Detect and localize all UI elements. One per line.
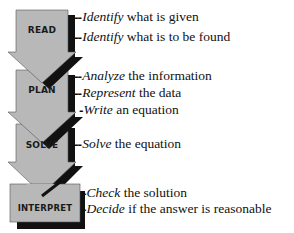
dash-connector: - bbox=[82, 187, 86, 201]
dash-connector: - bbox=[82, 203, 86, 217]
problem-solving-flow-diagram: READ PLAN SOLVE INTERPRET --Identify wha… bbox=[0, 0, 294, 233]
stage-label-interpret: INTERPRET bbox=[10, 203, 80, 213]
step-verb: Check bbox=[87, 185, 121, 200]
step-text: what is given bbox=[123, 9, 198, 24]
step-text: the equation bbox=[111, 136, 181, 151]
step-verb: Analyze bbox=[82, 68, 125, 83]
read-step-2: --Identify what is to be found bbox=[74, 30, 230, 45]
step-verb: Identify bbox=[82, 29, 123, 44]
dash-connector: -- bbox=[74, 11, 81, 25]
dash-connector: -- bbox=[74, 31, 81, 45]
dash-connector: - bbox=[79, 104, 83, 118]
plan-step-3: -Write an equation bbox=[79, 103, 179, 118]
stage-label-solve: SOLVE bbox=[16, 140, 68, 150]
dash-connector: -- bbox=[74, 70, 81, 84]
step-verb: Represent bbox=[82, 85, 135, 100]
step-text: if the answer is reasonable bbox=[125, 201, 272, 216]
dash-connector: -- bbox=[74, 87, 81, 101]
step-verb: Identify bbox=[82, 9, 123, 24]
read-step-1: --Identify what is given bbox=[74, 10, 199, 25]
step-verb: Solve bbox=[82, 136, 111, 151]
solve-step-1: --Solve the equation bbox=[74, 137, 181, 152]
step-verb: Decide bbox=[87, 201, 125, 216]
step-text: the data bbox=[136, 85, 182, 100]
step-text: what is to be found bbox=[123, 29, 230, 44]
interpret-step-1: -Check the solution bbox=[82, 186, 187, 201]
plan-step-2: --Represent the data bbox=[74, 86, 181, 101]
step-text: the information bbox=[125, 68, 212, 83]
dash-connector: -- bbox=[74, 138, 81, 152]
stage-label-read: READ bbox=[16, 25, 68, 35]
step-verb: Write bbox=[84, 102, 113, 117]
interpret-step-2: -Decide if the answer is reasonable bbox=[82, 202, 271, 217]
stage-label-plan: PLAN bbox=[16, 85, 68, 95]
plan-step-1: --Analyze the information bbox=[74, 69, 212, 84]
step-text: the solution bbox=[120, 185, 187, 200]
step-text: an equation bbox=[113, 102, 179, 117]
